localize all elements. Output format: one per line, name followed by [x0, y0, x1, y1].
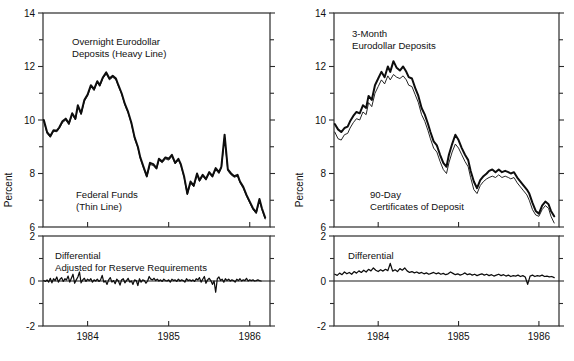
annotation-differential: Differential: [348, 250, 394, 261]
x-tick-label: 1985: [447, 331, 470, 342]
annotation-overnight-eurodollar-line2: Deposits (Heavy Line): [72, 48, 166, 59]
interest-rate-comparison-figure: 6810121468101214-202198419851986-2021984…: [0, 0, 574, 361]
y-tick-label: 14: [315, 8, 327, 19]
y-tick-label: 2: [320, 231, 326, 242]
annotation-3month-eurodollar-line1: 3-Month: [352, 28, 387, 39]
y-tick-label: 10: [24, 115, 36, 126]
annotation-federal-funds-line2: (Thin Line): [76, 201, 122, 212]
y-tick-label: 10: [315, 115, 327, 126]
annotation-overnight-eurodollar-line1: Overnight Eurodollar: [72, 36, 161, 47]
x-tick-label: 1985: [158, 331, 181, 342]
x-tick-label: 1986: [239, 331, 262, 342]
y-tick-label: 14: [24, 8, 36, 19]
panel-bottom-left: -202198419851986: [26, 231, 275, 343]
y-tick-label: 0: [29, 276, 35, 287]
y-tick-label: 12: [315, 61, 327, 72]
y-tick-label: 8: [320, 168, 326, 179]
y-tick-label: 12: [24, 61, 36, 72]
y-tick-label: 0: [320, 276, 326, 287]
annotation-federal-funds-line1: Federal Funds: [76, 189, 138, 200]
annotation-90day-cd-line2: Certificates of Deposit: [370, 201, 464, 212]
annotation-3month-eurodollar-line2: Eurodollar Deposits: [352, 40, 436, 51]
x-tick-label: 1986: [528, 331, 551, 342]
y-tick-label: 2: [29, 231, 35, 242]
y-tick-label: -2: [317, 321, 326, 332]
y-axis-title-left: Percent: [3, 173, 14, 208]
series-line-1: [44, 272, 261, 292]
x-tick-label: 1984: [76, 331, 99, 342]
figure-container: 6810121468101214-202198419851986-2021984…: [0, 0, 574, 361]
series-line-1: [335, 61, 554, 216]
y-tick-label: -2: [26, 321, 35, 332]
panel-bottom-right: -202198419851986: [317, 231, 564, 343]
annotation-differential-adjusted-line2: Adjusted for Reserve Requirements: [55, 262, 207, 273]
y-tick-label: 8: [29, 168, 35, 179]
y-axis-title-right: Percent: [294, 173, 305, 208]
annotation-90day-cd-line1: 90-Day: [370, 189, 401, 200]
x-tick-label: 1984: [367, 331, 390, 342]
annotation-differential-adjusted-line1: Differential: [55, 250, 101, 261]
